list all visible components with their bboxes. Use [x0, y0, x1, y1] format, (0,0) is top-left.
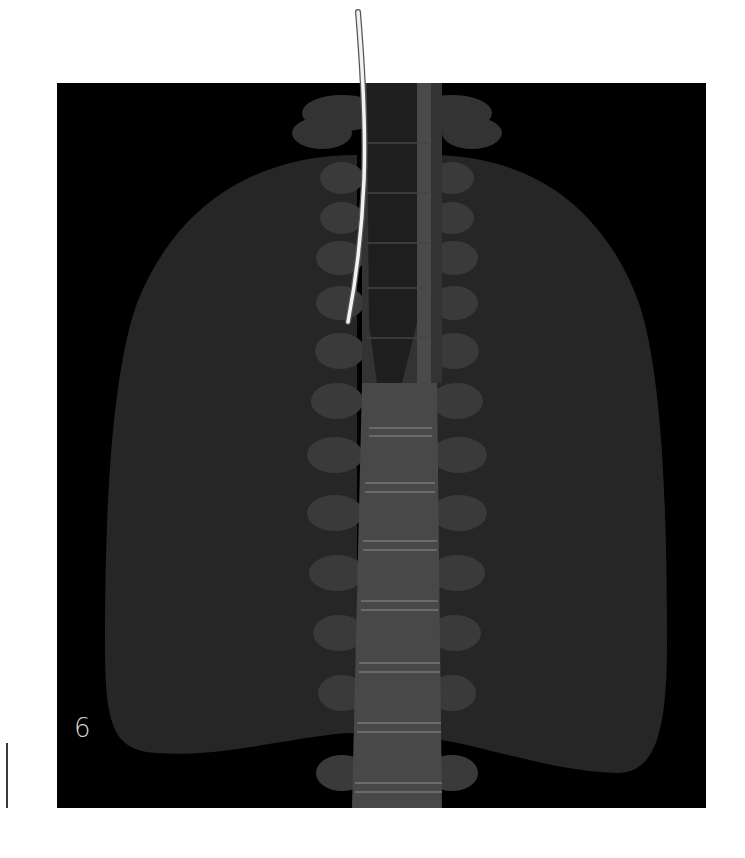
xray-panel: 6 — [57, 83, 706, 808]
chest-illustration — [57, 83, 706, 808]
side-rule — [6, 743, 8, 808]
spine — [352, 383, 442, 808]
panel-number: 6 — [74, 713, 91, 743]
spine-edge — [417, 83, 431, 393]
